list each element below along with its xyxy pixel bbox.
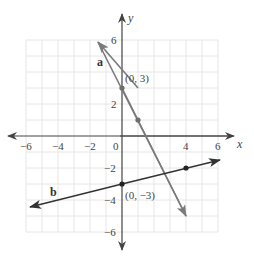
point-a-1-1 xyxy=(135,117,140,122)
point-a-label: (0, 3) xyxy=(125,72,149,85)
coordinate-graph: x y −6 −4 −2 0 4 6 6 2 −2 −4 −6 a (0, 3)… xyxy=(0,0,254,262)
line-a-label: a xyxy=(97,55,103,69)
point-b-4-neg2 xyxy=(183,165,188,170)
line-b-label: b xyxy=(50,185,57,199)
x-tick-6: 6 xyxy=(215,140,221,152)
point-b-label: (0, −3) xyxy=(125,189,155,202)
y-tick-neg6: −6 xyxy=(104,226,116,238)
line-b-right xyxy=(122,160,220,184)
x-axis-label: x xyxy=(236,137,243,151)
x-tick-4: 4 xyxy=(183,140,189,152)
origin-label: 0 xyxy=(113,140,119,152)
y-tick-neg4: −4 xyxy=(104,194,116,206)
y-tick-neg2: −2 xyxy=(104,162,116,174)
x-tick-neg6: −6 xyxy=(20,140,32,152)
point-b-0-neg3 xyxy=(119,181,124,186)
y-tick-6: 6 xyxy=(111,34,117,46)
point-a-0-3 xyxy=(119,85,124,90)
y-tick-2: 2 xyxy=(111,98,117,110)
y-axis-label: y xyxy=(127,11,134,25)
x-tick-neg4: −4 xyxy=(52,140,64,152)
x-tick-neg2: −2 xyxy=(84,140,96,152)
